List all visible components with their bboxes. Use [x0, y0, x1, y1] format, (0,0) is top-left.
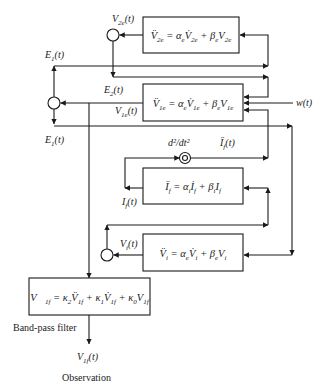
label-e1-top: E1(t)	[44, 49, 65, 63]
label-if-output: If(t)	[121, 196, 137, 210]
label-v1e-output: V1e(t)	[115, 105, 138, 119]
second-derivative-node	[180, 153, 191, 164]
label-v1f-output: V1f(t)	[77, 351, 99, 365]
line-if-ddot-to-v1e	[244, 110, 268, 158]
line-e1-to-v2e	[240, 35, 268, 66]
summing-node-v2e	[107, 29, 119, 41]
block-v2e: V̈2e = αeV̇2e + βeV2e	[143, 17, 239, 53]
label-w-input: w(t)	[296, 97, 313, 109]
label-if-ddot: Ïf(t)	[219, 137, 235, 151]
label-v2e-output: V2e(t)	[112, 13, 135, 27]
block-v1e: V̈1e = αeV̇1e + βeV1e	[143, 84, 243, 121]
block-diagram: V̈2e = αeV̇2e + βeV2e V̈1e = αeV̇1e + βe…	[0, 0, 325, 391]
label-e1-bottom: E1(t)	[44, 134, 65, 148]
label-e2: E2(t)	[103, 84, 124, 98]
label-observation: Observation	[62, 372, 111, 383]
label-vi-output: Vi(t)	[120, 238, 138, 252]
summing-node-vi	[101, 249, 113, 261]
line-e2-to-v1e	[244, 77, 268, 97]
block-if: Ïf = αiİf + βiIf	[143, 168, 243, 204]
label-band-pass-filter: Band-pass filter	[13, 322, 77, 333]
label-second-derivative: d²/dt²	[168, 137, 191, 148]
block-vi: V̈i = αeV̇i + βeVi	[143, 234, 243, 271]
summing-node-e	[48, 97, 60, 109]
block-band-pass-filter: V⃛1f = κ2V̈1f + κ1V̇1f + κ0V1f	[29, 278, 150, 315]
